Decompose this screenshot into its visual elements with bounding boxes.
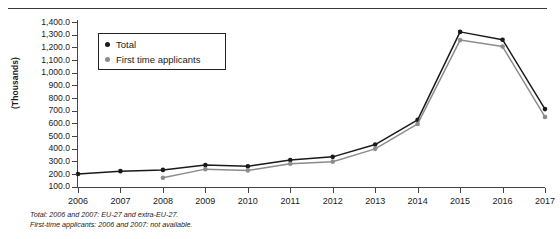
data-point-marker <box>161 175 166 180</box>
x-axis-tick-mark <box>120 188 121 193</box>
footnote-total: Total: 2006 and 2007: EU-27 and extra-EU… <box>30 210 430 220</box>
x-axis-tick-label: 2015 <box>440 196 480 206</box>
x-axis-tick-mark <box>78 188 79 193</box>
data-point-marker <box>500 44 505 49</box>
x-axis-tick-mark <box>205 188 206 193</box>
data-point-marker <box>458 30 463 35</box>
y-axis-tick-mark <box>72 98 77 99</box>
x-axis-tick-label: 2016 <box>483 196 523 206</box>
y-axis-tick-mark <box>72 149 77 150</box>
chart-legend: Total First time applicants <box>98 33 226 70</box>
x-axis-tick-label: 2007 <box>100 196 140 206</box>
y-axis-tick-mark <box>72 73 77 74</box>
data-point-marker <box>288 162 293 167</box>
legend-marker-first-time-applicants <box>105 57 110 62</box>
data-point-marker <box>543 107 548 112</box>
data-point-marker <box>373 142 378 147</box>
footnote-first-time: First-time applicants: 2006 and 2007: no… <box>30 220 430 230</box>
x-axis-tick-label: 2010 <box>228 196 268 206</box>
legend-item-first-time-applicants: First time applicants <box>105 52 219 67</box>
y-axis-tick-mark <box>72 136 77 137</box>
x-axis-tick-mark <box>248 188 249 193</box>
data-point-marker <box>246 168 251 173</box>
x-axis-tick-label: 2008 <box>143 196 183 206</box>
x-axis-tick-label: 2013 <box>355 196 395 206</box>
data-point-marker <box>415 122 420 127</box>
footnotes: Total: 2006 and 2007: EU-27 and extra-EU… <box>30 210 430 230</box>
x-axis-tick-mark <box>375 188 376 193</box>
y-axis-tick-mark <box>72 35 77 36</box>
x-axis-tick-mark <box>418 188 419 193</box>
legend-marker-total <box>105 42 110 47</box>
data-point-marker <box>543 115 548 120</box>
y-axis-tick-mark <box>72 174 77 175</box>
x-axis-tick-label: 2011 <box>270 196 310 206</box>
data-point-marker <box>118 169 123 174</box>
legend-label-total: Total <box>116 39 136 50</box>
legend-item-total: Total <box>105 37 219 52</box>
y-axis-tick-mark <box>72 161 77 162</box>
x-axis-tick-label: 2012 <box>313 196 353 206</box>
x-axis-tick-mark <box>290 188 291 193</box>
y-axis-tick-mark <box>72 85 77 86</box>
data-point-marker <box>330 159 335 164</box>
data-point-marker <box>330 155 335 160</box>
data-point-marker <box>203 163 208 168</box>
data-point-marker <box>500 37 505 42</box>
data-point-marker <box>203 167 208 172</box>
x-axis-tick-label: 2014 <box>398 196 438 206</box>
x-axis-tick-label: 2006 <box>58 196 98 206</box>
y-axis-tick-mark <box>72 60 77 61</box>
y-axis-tick-mark <box>72 47 77 48</box>
x-axis-tick-mark <box>333 188 334 193</box>
data-point-marker <box>161 168 166 173</box>
y-axis-tick-mark <box>72 111 77 112</box>
y-axis-tick-mark <box>72 187 77 188</box>
data-point-marker <box>246 164 251 169</box>
x-axis-tick-label: 2009 <box>185 196 225 206</box>
legend-label-first-time-applicants: First time applicants <box>116 54 200 65</box>
y-axis-tick-mark <box>72 123 77 124</box>
data-point-marker <box>373 147 378 152</box>
x-axis-tick-mark <box>545 188 546 193</box>
x-axis-tick-mark <box>460 188 461 193</box>
y-axis-tick-mark <box>72 22 77 23</box>
x-axis-tick-mark <box>163 188 164 193</box>
data-point-marker <box>458 38 463 43</box>
x-axis-tick-label: 2017 <box>525 196 560 206</box>
x-axis-tick-mark <box>503 188 504 193</box>
